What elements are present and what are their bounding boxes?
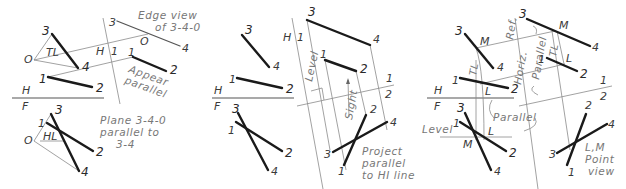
point-4-label: 4 <box>273 60 280 73</box>
12-reference-line <box>519 86 612 106</box>
ref-label-f: F <box>22 100 29 113</box>
panel-3: H F 3 4 1 2 M L TL Horiz. Ref. Parallel … <box>422 7 615 189</box>
point-m-label: M <box>480 35 490 48</box>
point-o-label: O <box>24 53 33 66</box>
front-point-o-label: O <box>24 134 33 147</box>
point-3-label: 3 <box>42 24 50 38</box>
aux-point-1-label: 1 <box>320 48 327 61</box>
aux-point-4-label: 4 <box>182 42 189 55</box>
project-note-2: parallel <box>361 157 406 169</box>
aux-ref-label-h: H <box>283 31 291 44</box>
front-point-l-label: L <box>488 125 494 138</box>
aux-point-1-label: 1 <box>128 46 135 59</box>
aux2-point-4-label: 4 <box>390 116 397 129</box>
edge-view-note: Edge view <box>138 9 197 21</box>
line-3-4-aux <box>307 20 370 45</box>
edge-view-note-2: of 3-4-0 <box>155 21 201 33</box>
front-point-3-label: 3 <box>55 103 63 117</box>
right-angle-mark <box>311 88 324 100</box>
project-note: Project <box>362 145 403 157</box>
aux-point-4-label: 4 <box>592 41 599 54</box>
aux-point-3-label: 3 <box>109 16 116 29</box>
aux-point-2-label: 2 <box>360 62 368 76</box>
panel-2: H F 3 4 1 2 H 1 3 4 1 2 1 2 Level Sight <box>212 5 415 189</box>
level-note: Level <box>422 123 453 135</box>
point-3-label: 3 <box>245 23 253 37</box>
line-1-2-top <box>48 77 92 87</box>
plane-note-2: parallel to <box>99 126 160 138</box>
aux-ref2-label-2: 2 <box>600 90 607 103</box>
ref-label-f: F <box>214 100 221 113</box>
aux2-point-1-label: 1 <box>338 165 345 178</box>
aux-true-length-label: TL <box>547 43 560 57</box>
ref-label-h: H <box>214 84 222 97</box>
front-point-1-label: 1 <box>228 124 235 137</box>
aux-point-l-label: L <box>566 52 572 65</box>
aux2-point-2-label: 2 <box>370 103 377 116</box>
front-point-2-label: 2 <box>285 146 293 160</box>
point-4-label: 4 <box>82 60 90 74</box>
horiz-note: Horiz. <box>511 50 529 86</box>
front-point-4-label: 4 <box>494 165 501 178</box>
aux-point-m-label: M <box>559 19 569 32</box>
aux2-point-1-label: 1 <box>568 166 575 179</box>
horizontal-line-label: HL <box>43 130 57 143</box>
lm-note: L,M <box>585 141 605 153</box>
front-point-3-label: 3 <box>232 102 240 116</box>
projector-3 <box>307 20 330 150</box>
point-1-label: 1 <box>229 73 236 86</box>
front-point-4-label: 4 <box>271 165 278 178</box>
aux-ref-label-h: H <box>96 45 104 58</box>
line-1-2-top <box>237 78 282 88</box>
line-3-4-top <box>242 35 269 67</box>
line-3-4-front <box>238 113 268 170</box>
aux-point-1-label: 1 <box>538 53 545 66</box>
ref-label-h: H <box>22 84 30 97</box>
sight-arrow-icon <box>346 78 350 84</box>
point-2-label: 2 <box>286 82 294 96</box>
aux2-point-4-label: 4 <box>608 118 615 131</box>
aux2-point-3-label: 3 <box>549 148 556 161</box>
ref-note: Ref. <box>503 16 519 41</box>
aux-point-2-label: 2 <box>170 63 178 77</box>
point-l-label: L <box>485 85 491 98</box>
aux-point-3-label: 3 <box>519 7 527 21</box>
front-point-2-label: 2 <box>509 146 517 160</box>
line-1-2-front <box>236 122 282 151</box>
aux-ref-label-1: 1 <box>111 45 118 58</box>
parallel-note-horizontal: Parallel <box>493 111 537 123</box>
aux2-point-3-label: 3 <box>324 148 331 161</box>
ref-label-h: H <box>434 84 442 97</box>
aux2-point-2-label: 2 <box>585 99 592 112</box>
line-1-2-aux <box>547 58 577 71</box>
true-length-label: TL <box>467 62 480 76</box>
plane-note-3: 3-4 <box>116 138 135 150</box>
sight-note: Sight <box>342 88 359 120</box>
1-projection-line <box>48 57 133 77</box>
front-point-1-label: 1 <box>453 117 460 130</box>
front-point-m-label: M <box>463 138 473 151</box>
point-1-label: 1 <box>39 72 47 86</box>
ref-label-f: F <box>434 100 441 113</box>
point-1-label: 1 <box>452 74 459 87</box>
front-point-3-label: 3 <box>457 101 465 115</box>
line-1-2-aux2 <box>567 114 586 165</box>
plane-note: Plane 3-4-0 <box>100 114 166 126</box>
aux-point-o-label: O <box>140 35 149 48</box>
front-point-2-label: 2 <box>96 145 104 159</box>
point-4-label: 4 <box>497 61 504 74</box>
true-length-label: TL <box>46 46 59 59</box>
descriptive-geometry-figure: H F H 1 3 4 1 2 O TL 3 4 O 1 2 Edge view… <box>0 0 626 189</box>
point-2-label: 2 <box>96 81 104 95</box>
aux-ref-label-1: 1 <box>297 31 304 44</box>
aux-point-4-label: 4 <box>373 33 380 46</box>
point-view-note: Point <box>585 153 615 165</box>
front-point-4-label: 4 <box>81 165 89 179</box>
level-note: Level <box>302 50 320 83</box>
aux-ref2-label-1: 1 <box>600 74 607 87</box>
tl-vertical-curve <box>476 48 484 140</box>
point-view-note-2: view <box>588 165 615 177</box>
aux-ref2-label-2: 2 <box>385 88 392 101</box>
line-1-2-aux <box>325 60 356 71</box>
aux-point-3-label: 3 <box>308 5 316 19</box>
